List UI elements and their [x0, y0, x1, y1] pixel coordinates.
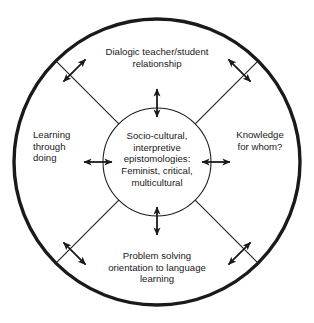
- label-right-knowledge-for-whom: Knowledge for whom?: [224, 129, 296, 152]
- label-bottom-problem-solving: Problem solving orientation to language …: [77, 250, 237, 285]
- label-left-learning-through-doing: Learning through doing: [33, 129, 95, 164]
- label-top-dialogic-relationship: Dialogic teacher/student relationship: [84, 46, 230, 69]
- cross-arrow-up-left-b: [64, 60, 86, 82]
- cross-arrow-up-right-b: [229, 60, 251, 82]
- concentric-circle-diagram: Socio-cultural, interpretive epistomolog…: [0, 0, 314, 323]
- center-core-text: Socio-cultural, interpretive epistomolog…: [101, 130, 213, 189]
- spoke-up-left: [56, 61, 119, 124]
- spoke-up-right: [195, 61, 258, 124]
